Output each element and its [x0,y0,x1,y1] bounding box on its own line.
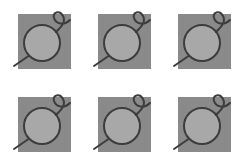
circle-loop-icon [12,85,72,155]
circle-loop-icon [92,85,152,155]
circle-loop-icon-graphic [172,2,242,74]
circle-loop-icon-graphic [12,2,82,74]
circle-loop-icon-graphic [172,85,242,157]
circle-loop-icon-graphic [12,85,82,157]
circle-loop-icon [172,85,232,155]
circle-loop-icon [92,2,152,72]
circle-loop-icon-graphic [92,2,162,74]
circle-loop-icon [172,2,232,72]
circle-loop-icon-graphic [92,85,162,157]
circle-loop-icon [12,2,72,72]
